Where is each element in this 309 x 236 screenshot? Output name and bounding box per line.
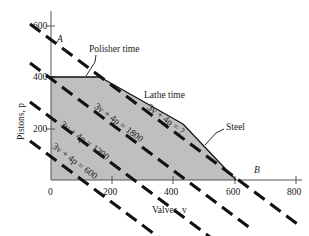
x-tick-label-0: 0 (48, 188, 53, 198)
x-axis-label: Valves, v (152, 206, 187, 216)
x-tick-label-600: 600 (226, 188, 240, 198)
y-tick-label-400: 400 (33, 73, 47, 83)
annotation-lathe-time: Lathe time (144, 91, 185, 101)
x-tick-label-800: 800 (287, 188, 301, 198)
y-axis-label: Pistons, p (17, 103, 27, 140)
leader-steel (205, 129, 224, 145)
point-label-a: A (57, 35, 63, 45)
y-tick-label-200: 200 (33, 125, 47, 135)
x-tick-label-400: 400 (164, 188, 178, 198)
annotation-polisher-time: Polisher time (89, 45, 139, 55)
annotation-steel: Steel (226, 123, 245, 133)
point-label-b: B (254, 166, 260, 176)
linear-programming-chart: 600 400 200 0 200 400 600 800 Pistons, p… (0, 0, 309, 236)
y-tick-label-600: 600 (33, 22, 47, 32)
x-tick-label-200: 200 (103, 188, 117, 198)
